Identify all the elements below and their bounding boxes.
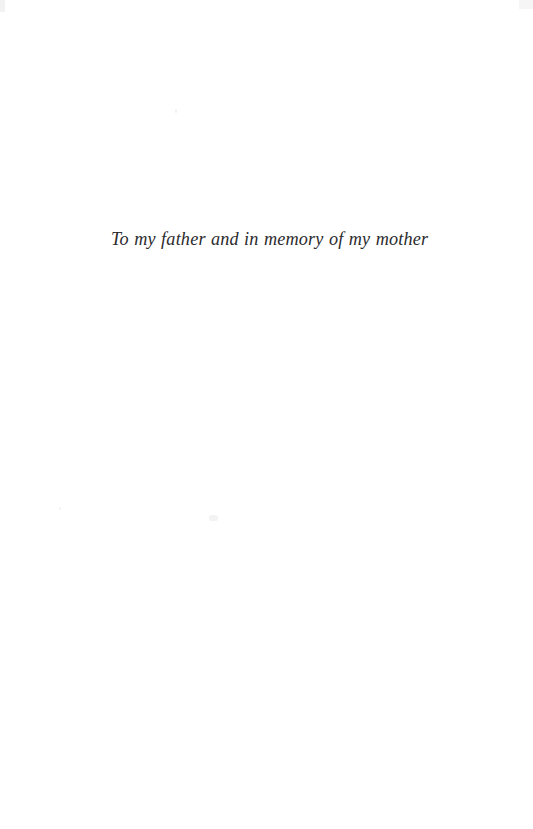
scan-artifact-speck-mid-center: [209, 515, 218, 521]
dedication-page: To my father and in memory of my mother: [0, 0, 533, 829]
scan-artifact-top-left-smudge: [0, 0, 5, 12]
scan-artifact-speck-mid-left: [59, 507, 61, 510]
dedication-text: To my father and in memory of my mother: [111, 228, 428, 250]
scan-artifact-speck-upper: [175, 109, 177, 113]
scan-artifact-top-right-smudge: [519, 0, 533, 9]
